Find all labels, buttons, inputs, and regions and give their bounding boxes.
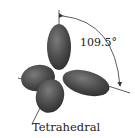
orbital-illustration [0,0,135,138]
bond-angle-label: 109.5° [80,36,117,49]
lobe-right [60,65,113,101]
lobe-top [47,24,71,70]
figure-caption: Tetrahedral [32,120,100,134]
tetrahedral-orbital-diagram: 109.5° Tetrahedral [0,0,135,138]
